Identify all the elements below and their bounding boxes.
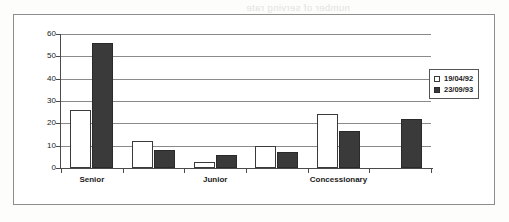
y-axis-tick-label: 0 xyxy=(32,164,56,172)
y-axis-tick-label: 40 xyxy=(32,75,56,83)
y-axis-tick xyxy=(56,79,61,80)
filled-square-icon xyxy=(434,87,440,93)
legend-item: 23/09/93 xyxy=(434,84,473,95)
bar-series1-group5 xyxy=(317,114,338,168)
x-axis-tick xyxy=(184,168,185,173)
y-axis-tick-label: 10 xyxy=(32,142,56,150)
y-axis-tick xyxy=(56,34,61,35)
y-axis-tick-label: 60 xyxy=(32,30,56,38)
bar-series2-group1 xyxy=(92,43,113,168)
gridline xyxy=(61,146,431,147)
y-axis-tick xyxy=(56,146,61,147)
bar-series2-group4 xyxy=(277,152,298,168)
bar-series2-group2 xyxy=(154,150,175,168)
hollow-square-icon xyxy=(434,76,440,82)
chart-legend: 19/04/92 23/09/93 xyxy=(429,69,479,99)
x-axis-tick xyxy=(431,168,432,173)
gridline xyxy=(61,101,431,102)
y-axis-tick xyxy=(56,123,61,124)
x-axis-baseline xyxy=(61,168,433,169)
legend-item-label: 23/09/93 xyxy=(444,86,473,94)
bar-series2-group6 xyxy=(401,119,422,168)
bar-series1-group1 xyxy=(70,110,91,168)
x-axis-tick xyxy=(369,168,370,173)
y-axis-tick xyxy=(56,56,61,57)
x-axis-tick xyxy=(123,168,124,173)
gridline xyxy=(61,56,431,57)
y-axis-tick-label: 30 xyxy=(32,97,56,105)
x-axis-category-label: Junior xyxy=(203,176,227,184)
bar-series1-group2 xyxy=(132,141,153,168)
chart-figure-frame: 0102030405060 19/04/92 23/09/93 SeniorJu… xyxy=(13,14,495,205)
x-axis-tick xyxy=(246,168,247,173)
y-axis-tick xyxy=(56,101,61,102)
legend-item-label: 19/04/92 xyxy=(444,75,473,83)
bar-series1-group4 xyxy=(255,146,276,168)
x-axis-tick xyxy=(61,168,62,173)
plot-area xyxy=(61,34,431,168)
x-axis-category-label: Concessionary xyxy=(310,176,367,184)
x-axis-category-label: Senior xyxy=(79,176,104,184)
gridline xyxy=(61,79,431,80)
y-axis-tick-label: 50 xyxy=(32,52,56,60)
y-axis-tick-label: 20 xyxy=(32,119,56,127)
bar-series2-group3 xyxy=(216,155,237,168)
y-axis-tick-labels: 0102030405060 xyxy=(22,15,56,206)
x-axis-tick xyxy=(308,168,309,173)
gridline xyxy=(61,34,431,35)
bleed-through-ghost-text: number of serving rate xyxy=(246,2,350,13)
gridline xyxy=(61,123,431,124)
scanned-page-background: number of serving rate 0102030405060 19/… xyxy=(0,0,509,222)
legend-item: 19/04/92 xyxy=(434,73,473,84)
bar-series2-group5 xyxy=(339,131,360,168)
